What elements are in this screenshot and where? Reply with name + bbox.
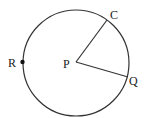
label-r: R xyxy=(8,56,16,70)
circle-diagram: P C Q R xyxy=(0,0,146,118)
label-c: C xyxy=(110,8,118,22)
point-r-marker xyxy=(20,60,24,64)
radius-pq xyxy=(76,62,128,77)
circle xyxy=(23,10,129,116)
radius-pc xyxy=(76,20,107,62)
label-p: P xyxy=(63,57,70,71)
label-q: Q xyxy=(129,74,138,88)
